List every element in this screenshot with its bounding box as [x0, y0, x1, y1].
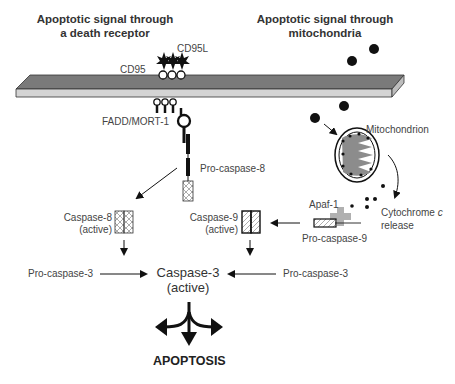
label-cytochrome: Cytochrome — [381, 207, 435, 218]
label-caspase3-state: (active) — [148, 280, 228, 295]
mitochondrion-icon — [335, 128, 379, 182]
label-apoptosis: APOPTOSIS — [153, 354, 226, 368]
apoptosis-pathway-diagram — [0, 0, 455, 384]
caspase-box-icon — [242, 211, 260, 233]
label-procaspase9: Pro-caspase-9 — [302, 233, 367, 245]
label-caspase8-state: (active) — [58, 224, 112, 236]
header-line: Apoptotic signal through — [30, 12, 180, 26]
label-fadd: FADD/MORT-1 — [102, 116, 169, 128]
label-caspase9-name: Caspase-9 — [184, 212, 238, 224]
caspase-box-icon — [115, 211, 133, 233]
label-release: release — [381, 219, 443, 232]
header-line: mitochondria — [250, 26, 400, 40]
label-apaf1: Apaf-1 — [309, 199, 338, 211]
label-procaspase3-right: Pro-caspase-3 — [283, 268, 348, 280]
label-caspase3: Caspase-3 (active) — [148, 265, 228, 295]
label-caspase9-state: (active) — [184, 224, 238, 236]
header-line: a death receptor — [30, 26, 180, 40]
label-caspase8: Caspase-8 (active) — [58, 212, 112, 236]
label-caspase9: Caspase-9 (active) — [184, 212, 238, 236]
label-caspase3-name: Caspase-3 — [148, 265, 228, 280]
label-mitochondrion: Mitochondrion — [366, 124, 429, 136]
label-cytochrome-release: Cytochrome c release — [381, 206, 443, 232]
header-mitochondria: Apoptotic signal through mitochondria — [250, 12, 400, 40]
label-procaspase3-left: Pro-caspase-3 — [28, 268, 93, 280]
three-way-arrow-icon — [155, 302, 223, 346]
arrow-icon — [137, 168, 177, 198]
cell-membrane — [16, 75, 404, 97]
receptor-circle-icon — [159, 71, 185, 79]
arrow-icon — [324, 124, 336, 134]
header-line: Apoptotic signal through — [250, 12, 400, 26]
label-cytochrome-c: c — [438, 207, 443, 218]
procaspase8-icon — [183, 134, 193, 201]
label-cytochrome-line: Cytochrome c — [381, 206, 443, 219]
header-death-receptor: Apoptotic signal through a death recepto… — [30, 12, 180, 40]
label-procaspase8: Pro-caspase-8 — [200, 163, 265, 175]
label-cd95: CD95 — [120, 64, 146, 76]
label-cd95l: CD95L — [177, 43, 208, 55]
label-caspase8-name: Caspase-8 — [58, 212, 112, 224]
arrow-icon — [388, 155, 398, 197]
